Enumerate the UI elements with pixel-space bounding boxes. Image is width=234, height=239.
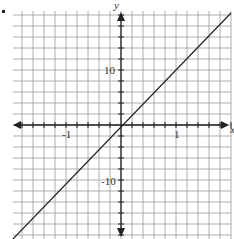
coordinate-plane: y x 10 -10 -1 1 — [0, 0, 234, 239]
x-axis-right-arrow-icon — [221, 121, 229, 129]
x-tick-label-1: 1 — [174, 128, 180, 140]
y-tick-label-neg10: -10 — [101, 175, 116, 187]
y-axis-label: y — [113, 0, 119, 11]
x-tick-label-neg1: -1 — [62, 128, 71, 140]
x-axis-left-arrow-icon — [13, 121, 21, 129]
y-axis-up-arrow-icon — [117, 12, 125, 21]
x-axis-label: x — [229, 123, 234, 135]
y-axis-down-arrow-icon — [117, 228, 125, 237]
y-tick-label-10: 10 — [104, 64, 116, 76]
